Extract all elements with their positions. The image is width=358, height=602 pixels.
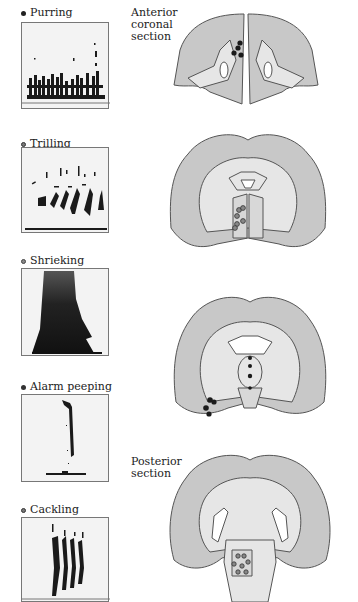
marker-dot-icon	[21, 11, 26, 16]
spectrogram-cackling-graphic	[22, 518, 110, 602]
call-name: Cackling	[30, 504, 79, 516]
marker-dot-icon	[21, 508, 26, 513]
call-label-cackling: Cackling	[21, 504, 79, 516]
marker-dot-icon	[21, 259, 26, 264]
brain-section-alarm-peeping	[168, 292, 333, 422]
call-name: Purring	[30, 7, 73, 19]
call-label-purring: Purring	[21, 7, 73, 19]
call-label-shrieking: Shrieking	[21, 255, 84, 267]
spectrogram-trilling	[21, 147, 109, 233]
call-name: Alarm peeping	[30, 381, 112, 393]
spectrogram-purring	[21, 22, 109, 109]
spectrogram-shrieking-graphic	[22, 269, 110, 357]
call-label-alarm-peeping: Alarm peeping	[21, 381, 112, 393]
spectrogram-trilling-graphic	[22, 148, 110, 234]
spectrogram-alarm-peeping	[21, 394, 109, 482]
brain-section-anterior	[170, 10, 320, 110]
brain-section-trilling	[163, 128, 333, 253]
call-name: Shrieking	[30, 255, 84, 267]
spectrogram-shrieking	[21, 268, 109, 356]
spectrogram-cackling	[21, 517, 109, 602]
marker-dot-icon	[21, 142, 26, 147]
spectrogram-purring-graphic	[22, 23, 110, 110]
brain-section-posterior	[160, 452, 340, 602]
spectrogram-alarm-peeping-graphic	[22, 395, 110, 483]
marker-dot-icon	[21, 385, 26, 390]
